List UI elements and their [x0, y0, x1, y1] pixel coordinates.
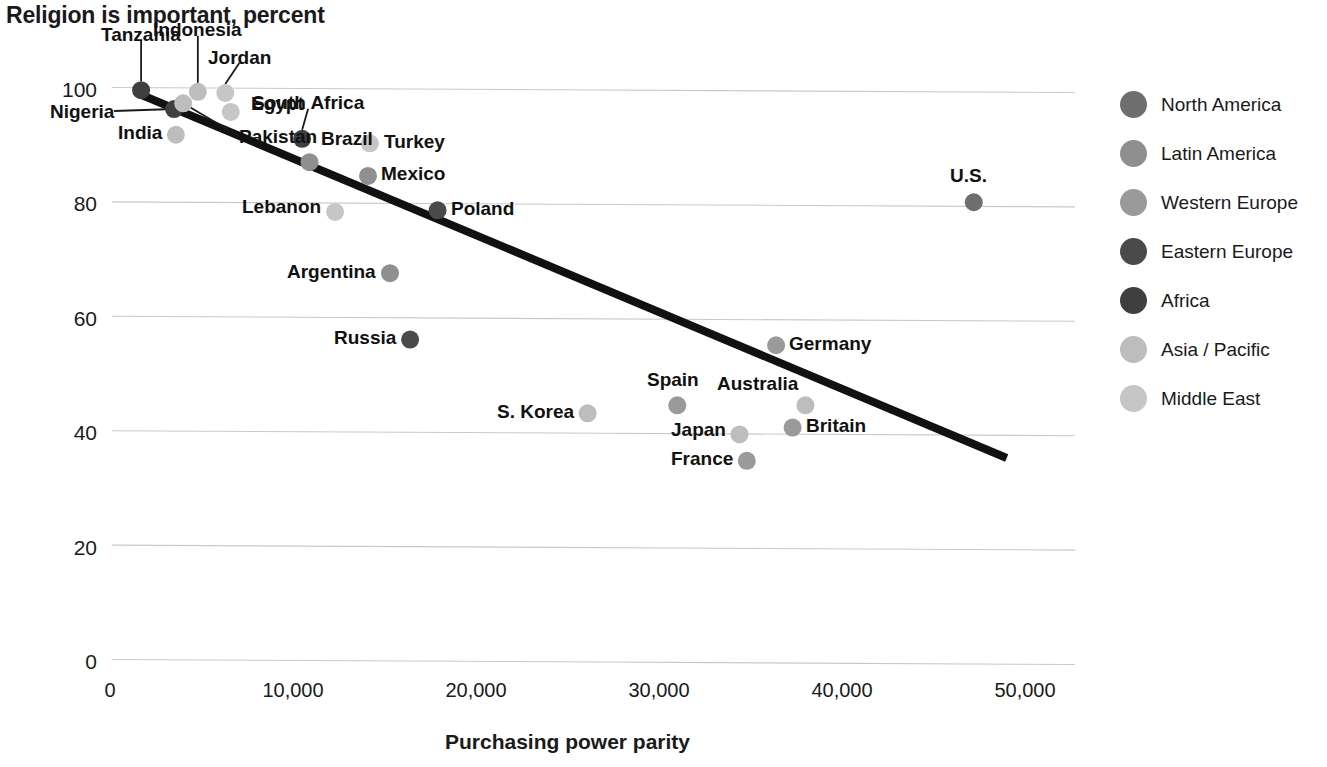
- gridline-y: [112, 545, 1075, 550]
- data-point-india[interactable]: [167, 126, 185, 144]
- data-point-france[interactable]: [738, 452, 756, 470]
- data-point-egypt[interactable]: [222, 103, 240, 121]
- point-label-spain: Spain: [647, 370, 699, 389]
- legend-swatch-icon: [1120, 91, 1147, 118]
- legend-swatch-icon: [1120, 336, 1147, 363]
- point-label-france: France: [671, 449, 733, 468]
- data-point-s-korea[interactable]: [579, 404, 597, 422]
- data-point-jordan[interactable]: [216, 84, 234, 102]
- data-point-spain[interactable]: [668, 396, 686, 414]
- legend-swatch-icon: [1120, 385, 1147, 412]
- point-label-s-korea: S. Korea: [497, 402, 574, 421]
- data-point-argentina[interactable]: [381, 264, 399, 282]
- point-label-lebanon: Lebanon: [242, 197, 321, 216]
- x-tick-label: 0: [104, 679, 115, 701]
- gridline-y: [112, 316, 1075, 321]
- y-tick-label: 80: [74, 192, 97, 215]
- gridline-y: [112, 660, 1075, 665]
- point-label-egypt: Egypt: [251, 94, 304, 113]
- data-point-tanzania[interactable]: [132, 81, 150, 99]
- point-label-brazil: Brazil: [321, 129, 373, 148]
- data-point-u-s[interactable]: [965, 193, 983, 211]
- legend-label: North America: [1161, 94, 1281, 116]
- data-point-pakistan[interactable]: [174, 94, 192, 112]
- point-label-turkey: Turkey: [384, 132, 445, 151]
- legend-swatch-icon: [1120, 140, 1147, 167]
- data-point-australia[interactable]: [796, 396, 814, 414]
- legend-swatch-icon: [1120, 287, 1147, 314]
- data-point-russia[interactable]: [401, 331, 419, 349]
- y-tick-label: 40: [74, 421, 97, 444]
- x-tick-label: 50,000: [994, 679, 1055, 701]
- data-point-germany[interactable]: [767, 336, 785, 354]
- data-point-britain[interactable]: [784, 419, 802, 437]
- point-label-russia: Russia: [334, 328, 396, 347]
- legend-swatch-icon: [1120, 189, 1147, 216]
- legend-label: Middle East: [1161, 388, 1260, 410]
- data-point-poland[interactable]: [429, 201, 447, 219]
- point-label-indonesia: Indonesia: [153, 20, 242, 39]
- point-label-poland: Poland: [451, 199, 514, 218]
- legend-item-eastern-europe[interactable]: Eastern Europe: [1120, 227, 1327, 276]
- legend-swatch-icon: [1120, 238, 1147, 265]
- data-point-brazil[interactable]: [300, 153, 318, 171]
- point-label-argentina: Argentina: [287, 262, 376, 281]
- point-label-nigeria: Nigeria: [50, 102, 114, 121]
- point-label-japan: Japan: [671, 420, 726, 439]
- data-point-mexico[interactable]: [359, 167, 377, 185]
- point-label-u-s: U.S.: [950, 166, 987, 185]
- point-label-britain: Britain: [806, 416, 866, 435]
- x-tick-label: 10,000: [262, 679, 323, 701]
- legend-item-north-america[interactable]: North America: [1120, 80, 1327, 129]
- point-label-jordan: Jordan: [208, 48, 271, 67]
- legend: North AmericaLatin AmericaWestern Europe…: [1120, 80, 1327, 423]
- point-label-mexico: Mexico: [381, 164, 445, 183]
- data-point-japan[interactable]: [731, 425, 749, 443]
- point-label-germany: Germany: [789, 334, 871, 353]
- legend-item-latin-america[interactable]: Latin America: [1120, 129, 1327, 178]
- data-point-lebanon[interactable]: [326, 203, 344, 221]
- legend-item-africa[interactable]: Africa: [1120, 276, 1327, 325]
- chart-root: Religion is important, percent 020406080…: [0, 0, 1327, 767]
- data-point-indonesia[interactable]: [189, 83, 207, 101]
- x-axis-title: Purchasing power parity: [0, 730, 1135, 754]
- y-tick-label: 20: [74, 536, 97, 559]
- gridline-y: [112, 431, 1075, 436]
- point-label-india: India: [118, 123, 162, 142]
- legend-item-western-europe[interactable]: Western Europe: [1120, 178, 1327, 227]
- leader-line: [114, 109, 174, 111]
- legend-item-middle-east[interactable]: Middle East: [1120, 374, 1327, 423]
- y-tick-label: 0: [85, 650, 97, 673]
- legend-label: Western Europe: [1161, 192, 1298, 214]
- point-label-australia: Australia: [717, 374, 798, 393]
- legend-label: Latin America: [1161, 143, 1276, 165]
- x-tick-label: 20,000: [445, 679, 506, 701]
- legend-item-asia-pacific[interactable]: Asia / Pacific: [1120, 325, 1327, 374]
- legend-label: Asia / Pacific: [1161, 339, 1270, 361]
- legend-label: Africa: [1161, 290, 1210, 312]
- y-tick-label: 60: [74, 307, 97, 330]
- y-tick-label: 100: [62, 78, 97, 101]
- point-label-pakistan: Pakistan: [239, 127, 317, 146]
- x-tick-label: 40,000: [811, 679, 872, 701]
- x-tick-label: 30,000: [628, 679, 689, 701]
- legend-label: Eastern Europe: [1161, 241, 1293, 263]
